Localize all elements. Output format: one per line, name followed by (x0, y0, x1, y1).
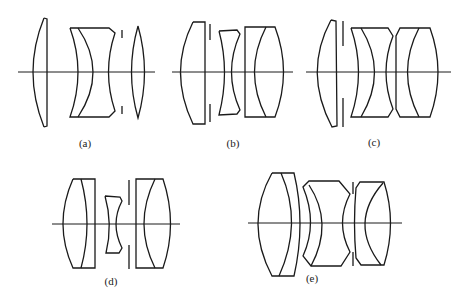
lens-element (258, 173, 300, 276)
panel-label: (a) (79, 137, 92, 150)
panel-label: (c) (368, 136, 381, 149)
lens-element (317, 20, 337, 127)
panel-label: (b) (227, 137, 240, 150)
cement-surface (279, 173, 292, 276)
panel-a: (a) (18, 18, 155, 150)
panel-e: (e) (248, 173, 402, 285)
panel-b: (b) (172, 22, 293, 150)
lens-diagram-figure: (a) (b) (c) (0, 0, 456, 297)
panel-label: (d) (105, 275, 118, 288)
lens-element (181, 22, 206, 124)
panel-label: (e) (306, 272, 319, 285)
cement-surface (365, 183, 383, 265)
panel-d: (d) (52, 179, 180, 288)
panel-c: (c) (306, 20, 451, 149)
